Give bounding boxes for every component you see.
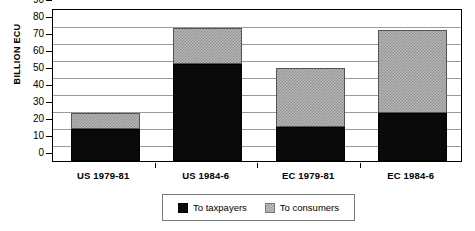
y-tick-label: 20	[33, 114, 44, 124]
y-tick-label: 50	[33, 63, 44, 73]
bar-group	[71, 8, 140, 161]
legend-label: To consumers	[280, 202, 339, 213]
legend: To taxpayers To consumers	[162, 194, 355, 221]
x-tick-mark	[257, 163, 258, 168]
bar-segment-to-consumers	[71, 113, 140, 128]
legend-swatch-gray-icon	[265, 203, 275, 213]
y-tick-mark	[46, 0, 52, 1]
bar-segment-to-taxpayers	[173, 64, 242, 161]
bar-segment-to-taxpayers	[276, 127, 345, 161]
y-tick-label: 40	[33, 80, 44, 90]
x-tick-label: US 1979-81	[52, 170, 155, 181]
bar-segment-to-consumers	[276, 68, 345, 128]
x-tick-mark	[360, 163, 361, 168]
legend-label: To taxpayers	[193, 202, 247, 213]
x-tick-label: US 1984-6	[155, 170, 258, 181]
bar-group	[173, 8, 242, 161]
bar-group	[378, 8, 447, 161]
bar-group	[276, 8, 345, 161]
bar-segment-to-taxpayers	[71, 129, 140, 161]
x-tick-label: EC 1979-81	[257, 170, 360, 181]
bar-segment-to-consumers	[378, 30, 447, 113]
y-tick-label: 0	[38, 148, 44, 158]
y-tick-label: 10	[33, 131, 44, 141]
y-tick-label: 60	[33, 46, 44, 56]
bar-segment-to-consumers	[173, 28, 242, 64]
x-tick-mark	[155, 163, 156, 168]
x-tick-label: EC 1984-6	[360, 170, 463, 181]
y-tick-label: 30	[33, 97, 44, 107]
legend-item-to-taxpayers: To taxpayers	[178, 202, 247, 213]
y-tick-label: 90	[33, 0, 44, 5]
y-tick-label: 70	[33, 29, 44, 39]
legend-item-to-consumers: To consumers	[265, 202, 339, 213]
y-axis: 9080706050403020100	[0, 0, 52, 153]
bar-segment-to-taxpayers	[378, 113, 447, 161]
plot-area	[52, 9, 462, 162]
bars-layer	[53, 10, 461, 161]
bar-chart: BILLION ECU 9080706050403020100 US 1979-…	[0, 0, 475, 231]
legend-swatch-black-icon	[178, 203, 188, 213]
y-tick-label: 80	[33, 12, 44, 22]
